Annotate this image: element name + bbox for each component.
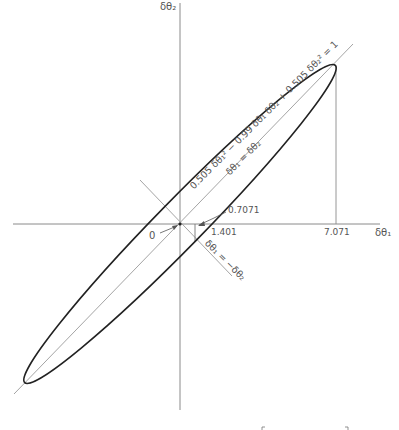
perp-foot-label: 1.401 xyxy=(211,228,237,237)
ellipse-diagram xyxy=(0,0,399,430)
major-axis-line xyxy=(14,44,353,394)
origin-label: 0 xyxy=(149,231,155,241)
x-axis-label: δθ₁ xyxy=(375,228,391,238)
tip-x-value-label: 7.071 xyxy=(324,228,350,237)
origin-arrow-head xyxy=(172,225,178,230)
minor-semi-axis-label: 0.7071 xyxy=(228,206,260,215)
origin-dot xyxy=(178,222,181,225)
y-axis-label: δθ₂ xyxy=(160,2,176,12)
